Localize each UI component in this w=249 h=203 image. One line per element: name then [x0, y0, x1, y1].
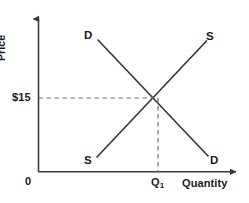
supply-demand-chart: Price Quantity 0 $15 Q1 D S S D: [0, 0, 249, 203]
supply-curve: [97, 41, 207, 157]
quantity-tick-base: Q: [151, 176, 160, 188]
demand-curve-label-bottom: D: [210, 155, 218, 167]
y-axis-title: Price: [0, 47, 38, 61]
quantity-tick-label: Q1: [151, 177, 164, 188]
origin-label: 0: [25, 176, 31, 187]
supply-curve-label-top: S: [206, 31, 214, 43]
quantity-tick-subscript: 1: [160, 181, 165, 190]
demand-curve-label-top: D: [84, 30, 92, 42]
price-tick-label: $15: [12, 92, 31, 103]
supply-curve-label-bottom: S: [84, 155, 92, 167]
x-axis-title: Quantity: [182, 178, 227, 189]
y-axis-title-text: Price: [0, 47, 8, 61]
